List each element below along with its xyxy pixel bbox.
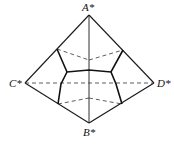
label-a: A* xyxy=(81,1,95,13)
label-c: C* xyxy=(9,77,22,89)
inner-polygon xyxy=(57,49,123,104)
outer-edges xyxy=(25,15,154,123)
pyramid-diagram: A* B* C* D* xyxy=(0,0,174,144)
label-b: B* xyxy=(83,126,96,138)
label-d: D* xyxy=(156,77,171,89)
dashed-lines xyxy=(25,49,154,104)
